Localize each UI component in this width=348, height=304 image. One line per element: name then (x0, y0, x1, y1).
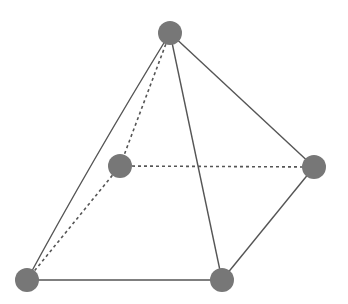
nodes-group (15, 21, 326, 292)
edge-apex-right (170, 33, 314, 167)
edge-back-left-right (120, 166, 314, 167)
node-back-left (108, 154, 132, 178)
node-apex (158, 21, 182, 45)
edge-right-front-right (222, 167, 314, 280)
node-right (302, 155, 326, 179)
pyramid-svg (0, 0, 348, 304)
edge-apex-back-left (120, 33, 170, 166)
pyramid-diagram (0, 0, 348, 304)
node-front-right (210, 268, 234, 292)
edge-apex-front-left (27, 33, 170, 280)
edge-apex-front-right (170, 33, 222, 280)
edge-back-left-front-left (27, 166, 120, 280)
node-front-left (15, 268, 39, 292)
edges-group (27, 33, 314, 280)
